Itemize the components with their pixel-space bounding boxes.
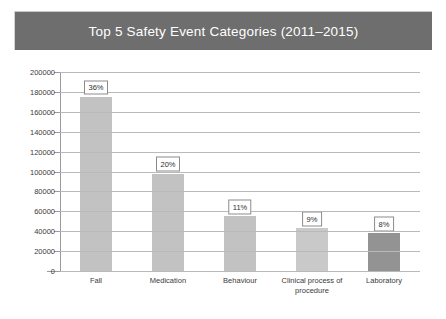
chart-figure: Top 5 Safety Event Categories (2011–2015… xyxy=(0,0,446,319)
plot-area xyxy=(60,72,420,271)
chart-title: Top 5 Safety Event Categories (2011–2015… xyxy=(89,24,359,39)
y-tick-label: 140000 xyxy=(0,127,55,136)
y-tick-label: 200000 xyxy=(0,68,55,77)
gridline xyxy=(60,112,420,113)
gridline xyxy=(60,191,420,192)
bar xyxy=(224,216,256,271)
bar-value-label: 11% xyxy=(228,200,251,215)
gridline xyxy=(60,271,420,272)
bar xyxy=(368,233,400,271)
bar xyxy=(80,97,112,271)
y-tick-label: 160000 xyxy=(0,107,55,116)
bar-value-label: 9% xyxy=(302,212,322,227)
y-tick-label: 60000 xyxy=(0,207,55,216)
y-tick-label: 20000 xyxy=(0,247,55,256)
bar xyxy=(296,228,328,271)
bar-value-label: 8% xyxy=(374,217,394,232)
x-tick-label: Laboratory xyxy=(338,276,430,286)
gridline xyxy=(60,72,420,73)
bar xyxy=(152,174,184,272)
y-tick-label: 80000 xyxy=(0,187,55,196)
gridline xyxy=(60,152,420,153)
gridline xyxy=(60,251,420,252)
y-tick-label: 120000 xyxy=(0,147,55,156)
chart-title-banner: Top 5 Safety Event Categories (2011–2015… xyxy=(14,11,432,50)
y-tick-label: 0 xyxy=(0,267,55,276)
bar-value-label: 36% xyxy=(84,80,108,95)
y-tick-label: 40000 xyxy=(0,227,55,236)
gridline xyxy=(60,172,420,173)
y-tick-label: 180000 xyxy=(0,87,55,96)
bar-value-label: 20% xyxy=(156,157,180,172)
y-tick-label: 100000 xyxy=(0,167,55,176)
gridline xyxy=(60,92,420,93)
gridline xyxy=(60,231,420,232)
gridline xyxy=(60,132,420,133)
